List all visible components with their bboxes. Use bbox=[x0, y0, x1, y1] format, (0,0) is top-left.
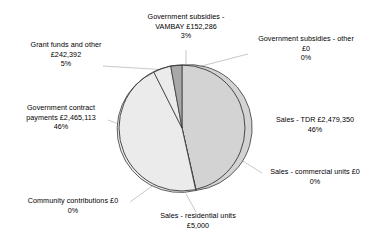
label-government-contract-payments: Government contract payments £2,465,113 … bbox=[2, 103, 120, 132]
label-grant-funds-line2: £242,392 bbox=[6, 50, 126, 60]
label-grant-funds-line3: 5% bbox=[6, 59, 126, 69]
label-subsidies-other-line1: Government subsidies - other bbox=[238, 34, 374, 44]
pie-chart: Government subsidies - VAMBAY £152,286 3… bbox=[0, 0, 378, 241]
leader-line-sales-residential bbox=[186, 194, 196, 212]
label-community-contributions: Community contributions £0 0% bbox=[8, 196, 138, 215]
label-sales-tdr-line1: Sales - TDR £2,479,350 bbox=[256, 115, 374, 125]
label-vambay-line2: VAMBAY £152,286 bbox=[118, 22, 254, 32]
label-sales-commercial-line1: Sales - commercial units £0 bbox=[254, 167, 376, 177]
label-vambay-line1: Government subsidies - bbox=[118, 12, 254, 22]
label-government-subsidies-other: Government subsidies - other £0 0% bbox=[238, 34, 374, 63]
pie-slices bbox=[117, 65, 252, 193]
label-community-line2: 0% bbox=[8, 206, 138, 216]
label-government-subsidies-vambay: Government subsidies - VAMBAY £152,286 3… bbox=[118, 12, 254, 41]
label-grant-funds-and-other: Grant funds and other £242,392 5% bbox=[6, 40, 126, 69]
label-sales-residential-units: Sales - residential units £5,000 bbox=[142, 211, 254, 230]
label-subsidies-other-line2: £0 bbox=[238, 44, 374, 54]
label-gov-contract-line1: Government contract bbox=[2, 103, 120, 113]
label-gov-contract-line3: 46% bbox=[2, 122, 120, 132]
label-gov-contract-line2: payments £2,465,113 bbox=[2, 113, 120, 123]
label-sales-commercial-line2: 0% bbox=[254, 177, 376, 187]
label-grant-funds-line1: Grant funds and other bbox=[6, 40, 126, 50]
label-sales-residential-line2: £5,000 bbox=[142, 221, 254, 231]
label-community-line1: Community contributions £0 bbox=[8, 196, 138, 206]
label-sales-commercial-units: Sales - commercial units £0 0% bbox=[254, 167, 376, 186]
label-vambay-line3: 3% bbox=[118, 31, 254, 41]
label-sales-residential-line1: Sales - residential units bbox=[142, 211, 254, 221]
label-sales-tdr: Sales - TDR £2,479,350 46% bbox=[256, 115, 374, 134]
label-subsidies-other-line3: 0% bbox=[238, 53, 374, 63]
label-sales-tdr-line2: 46% bbox=[256, 125, 374, 135]
pie-slice-sales-tdr[interactable] bbox=[182, 65, 252, 191]
